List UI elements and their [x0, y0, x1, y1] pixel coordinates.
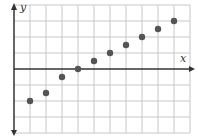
data-point	[27, 98, 33, 104]
data-point	[75, 66, 81, 72]
data-point	[171, 18, 177, 24]
data-point	[43, 90, 49, 96]
x-axis-arrow-right-icon	[189, 66, 195, 72]
data-point	[107, 50, 113, 56]
data-point	[139, 34, 145, 40]
data-point	[123, 42, 129, 48]
data-point	[91, 58, 97, 64]
axes	[11, 3, 195, 136]
x-axis-label: x	[180, 53, 186, 64]
y-axis-arrow-up-icon	[11, 3, 17, 10]
y-axis-label: y	[20, 2, 26, 13]
data-points	[27, 18, 177, 104]
scatter-plot	[0, 0, 198, 136]
data-point	[59, 74, 65, 80]
data-point	[155, 26, 161, 32]
